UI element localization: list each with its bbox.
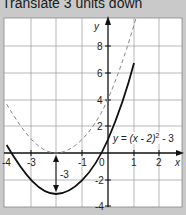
y-tick-6: 6 — [97, 68, 103, 79]
y-tick-8: 8 — [97, 41, 103, 52]
x-tick-m1: -1 — [78, 157, 87, 168]
shift-label: -3 — [60, 169, 69, 180]
y-tick-m4: -4 — [95, 201, 104, 212]
y-tick-2: 2 — [97, 121, 103, 132]
x-tick-m4: -4 — [2, 157, 11, 168]
y-tick-m2: -2 — [95, 175, 104, 186]
y-axis-label: y — [93, 21, 100, 32]
y-tick-4: 4 — [97, 95, 103, 106]
equation-label: y = (x - 2)2 - 3 — [112, 132, 174, 144]
x-tick-2: 2 — [156, 157, 162, 168]
x-axis-label: x — [174, 157, 181, 168]
graph: -4 -3 -1 0 1 2 x 8 6 4 2 -2 -4 y -3 y = … — [0, 0, 186, 215]
x-tick-m3: -3 — [27, 157, 36, 168]
equation-constant: - 3 — [159, 133, 174, 144]
x-tick-0: 0 — [99, 157, 105, 168]
equation-main: y = (x - 2) — [112, 133, 156, 144]
x-tick-1: 1 — [131, 157, 137, 168]
